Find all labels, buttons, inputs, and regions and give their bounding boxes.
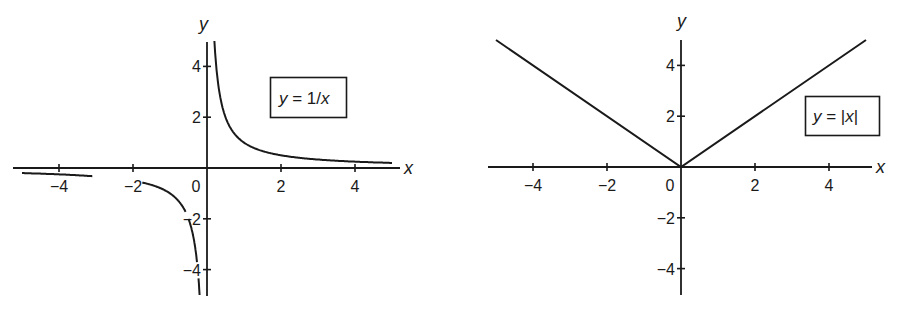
legend: y = 1/x [271, 78, 347, 118]
y-tick-label: 2 [192, 109, 201, 126]
chart-absolute-value: −4−2024−4−224 x y y = |x| [488, 11, 886, 295]
x-tick-label: 2 [277, 178, 286, 195]
axes [13, 42, 400, 296]
chart-reciprocal: −4−2024−4−224 x y y = 1/x [13, 14, 414, 296]
y-axis-label: y [197, 14, 209, 34]
x-tick-label: 0 [666, 177, 675, 194]
x-tick-label: 2 [751, 177, 760, 194]
x-tick-label: 0 [192, 178, 201, 195]
legend-text: y = |x| [812, 107, 858, 126]
figure: −4−2024−4−224 x y y = 1/x −4−2024−4−224 … [0, 0, 898, 309]
y-tick-label: −4 [183, 262, 201, 279]
y-axis-label: y [675, 11, 687, 31]
x-tick-label: −2 [124, 178, 142, 195]
y-tick-label: 2 [666, 108, 675, 125]
x-tick-label: −2 [598, 177, 616, 194]
x-tick-label: −4 [50, 178, 68, 195]
legend: y = |x| [806, 97, 880, 136]
x-tick-label: 4 [351, 178, 360, 195]
series-line [142, 183, 185, 212]
series-line [22, 173, 92, 176]
x-tick-label: 4 [825, 177, 834, 194]
y-tick-label: −2 [183, 211, 201, 228]
legend-text: y = 1/x [278, 89, 330, 108]
x-axis-label: x [875, 157, 886, 177]
y-tick-label: −4 [657, 261, 675, 278]
y-tick-label: −2 [657, 210, 675, 227]
y-tick-label: 4 [192, 58, 201, 75]
x-axis-label: x [403, 158, 414, 178]
x-tick-label: −4 [524, 177, 542, 194]
series-line [199, 278, 200, 295]
y-tick-label: 4 [666, 57, 675, 74]
